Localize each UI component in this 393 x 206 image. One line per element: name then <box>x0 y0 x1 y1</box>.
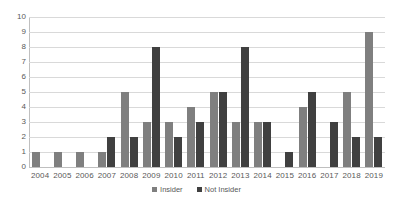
bar-group <box>51 17 73 167</box>
bar-group <box>318 17 340 167</box>
bar-group <box>252 17 274 167</box>
bar-insider <box>232 122 240 167</box>
x-tick-label: 2006 <box>74 169 96 183</box>
bar-insider <box>76 152 84 167</box>
x-axis-tick-labels: 2004200520062007200820092010201120122013… <box>29 169 385 183</box>
bar-insider <box>32 152 40 167</box>
bar-group <box>118 17 140 167</box>
x-tick-label: 2017 <box>318 169 340 183</box>
bar-not-insider <box>152 47 160 167</box>
bar-insider <box>365 32 373 167</box>
bar-group <box>29 17 51 167</box>
bar-chart: 10 9 8 7 6 5 4 3 2 1 0 20042005200620072… <box>0 0 393 206</box>
legend-swatch-not-insider-icon <box>197 187 202 192</box>
bar-insider <box>254 122 262 167</box>
bar-not-insider <box>263 122 271 167</box>
x-tick-label: 2010 <box>163 169 185 183</box>
bar-not-insider <box>130 137 138 167</box>
y-tick-label: 6 <box>21 73 26 81</box>
x-tick-label: 2015 <box>274 169 296 183</box>
bar-group <box>140 17 162 167</box>
bar-insider <box>165 122 173 167</box>
x-tick-label: 2016 <box>296 169 318 183</box>
x-tick-label: 2011 <box>185 169 207 183</box>
plot-area <box>29 17 385 167</box>
bar-insider <box>143 122 151 167</box>
x-tick-label: 2014 <box>252 169 274 183</box>
y-tick-label: 10 <box>17 13 26 21</box>
bar-not-insider <box>308 92 316 167</box>
bar-group <box>96 17 118 167</box>
bar-group <box>74 17 96 167</box>
chart-legend: Insider Not Insider <box>0 186 393 194</box>
y-tick-label: 7 <box>21 58 26 66</box>
x-tick-label: 2019 <box>363 169 385 183</box>
bar-not-insider <box>330 122 338 167</box>
bar-insider <box>343 92 351 167</box>
y-tick-label: 0 <box>21 163 26 171</box>
bar-not-insider <box>352 137 360 167</box>
bar-group <box>163 17 185 167</box>
y-tick-label: 9 <box>21 28 26 36</box>
bar-not-insider <box>196 122 204 167</box>
bar-group <box>207 17 229 167</box>
y-tick-label: 4 <box>21 103 26 111</box>
y-axis-tick-labels: 10 9 8 7 6 5 4 3 2 1 0 <box>0 17 26 167</box>
bar-insider <box>98 152 106 167</box>
bar-group <box>229 17 251 167</box>
bar-not-insider <box>285 152 293 167</box>
y-tick-label: 5 <box>21 88 26 96</box>
bar-group <box>341 17 363 167</box>
legend-label-not-insider: Not Insider <box>205 186 241 194</box>
bar-group <box>274 17 296 167</box>
bar-group <box>363 17 385 167</box>
x-axis-baseline <box>29 167 385 168</box>
legend-swatch-insider-icon <box>152 187 157 192</box>
y-tick-label: 2 <box>21 133 26 141</box>
bar-insider <box>210 92 218 167</box>
x-tick-label: 2018 <box>341 169 363 183</box>
x-tick-label: 2004 <box>29 169 51 183</box>
x-tick-label: 2009 <box>140 169 162 183</box>
x-tick-label: 2007 <box>96 169 118 183</box>
bar-not-insider <box>174 137 182 167</box>
x-tick-label: 2008 <box>118 169 140 183</box>
bar-not-insider <box>241 47 249 167</box>
x-tick-label: 2013 <box>229 169 251 183</box>
bar-group <box>185 17 207 167</box>
y-tick-label: 3 <box>21 118 26 126</box>
bar-not-insider <box>107 137 115 167</box>
y-tick-label: 1 <box>21 148 26 156</box>
legend-item-insider: Insider <box>152 186 183 194</box>
bar-insider <box>54 152 62 167</box>
bar-series-container <box>29 17 385 167</box>
y-tick-label: 8 <box>21 43 26 51</box>
bar-insider <box>187 107 195 167</box>
bar-insider <box>121 92 129 167</box>
bar-group <box>296 17 318 167</box>
x-tick-label: 2012 <box>207 169 229 183</box>
bar-not-insider <box>374 137 382 167</box>
legend-label-insider: Insider <box>160 186 183 194</box>
bar-insider <box>299 107 307 167</box>
bar-not-insider <box>219 92 227 167</box>
legend-item-not-insider: Not Insider <box>197 186 241 194</box>
x-tick-label: 2005 <box>51 169 73 183</box>
